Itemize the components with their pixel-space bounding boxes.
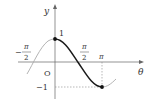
tick-label-one: 1	[59, 29, 64, 38]
x-axis-label: θ	[138, 67, 144, 77]
tick-label-neg-half-pi-den: 2	[24, 54, 28, 62]
cosine-curve-left-context	[27, 39, 55, 74]
point-pi-neg1	[100, 85, 104, 89]
tick-label-neg-sign: −	[15, 48, 22, 57]
tick-label-half-pi-num: π	[81, 43, 87, 51]
cosine-graph: y θ O 1 − π 2 π 2 π −1	[0, 0, 152, 104]
tick-label-half-pi-den: 2	[82, 54, 86, 62]
tick-label-pi: π	[98, 53, 104, 61]
tick-label-neg-half-pi-num: π	[23, 43, 29, 51]
y-axis-label: y	[43, 6, 50, 16]
point-0-1	[53, 37, 57, 41]
cosine-curve-highlight	[55, 39, 102, 87]
origin-label: O	[44, 69, 51, 78]
cosine-curve-right-context	[102, 79, 116, 87]
x-axis-arrow-icon	[139, 60, 144, 64]
y-axis-arrow-icon	[53, 4, 57, 9]
tick-label-neg-one: −1	[36, 83, 48, 92]
